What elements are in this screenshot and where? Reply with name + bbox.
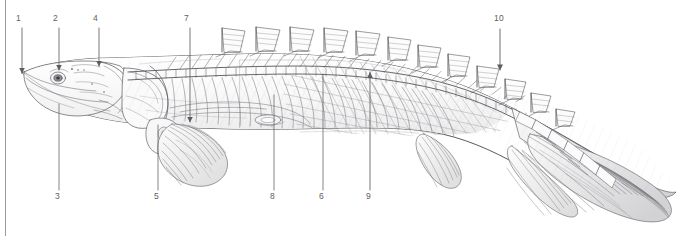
fish-illustration: [0, 0, 696, 236]
callout-label-4[interactable]: 4: [93, 14, 98, 23]
callout-label-8[interactable]: 8: [270, 192, 275, 201]
callout-label-2[interactable]: 2: [53, 14, 58, 23]
callout-label-3[interactable]: 3: [55, 192, 60, 201]
anatomical-plate: 1 2 4 7 10 3 5 8 6 9: [0, 0, 696, 236]
callout-label-5[interactable]: 5: [154, 192, 159, 201]
callout-label-10[interactable]: 10: [494, 14, 504, 23]
callout-label-6[interactable]: 6: [319, 192, 324, 201]
callout-label-1[interactable]: 1: [16, 14, 21, 23]
callout-label-7[interactable]: 7: [184, 14, 189, 23]
callout-label-9[interactable]: 9: [366, 192, 371, 201]
